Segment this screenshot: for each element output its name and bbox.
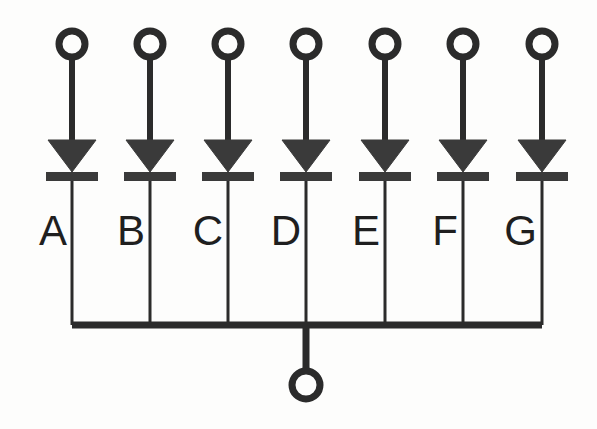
led-branch-g[interactable] [516,31,568,325]
branch-label-b: B [117,207,145,254]
schematic-canvas: ABCDEFG [0,0,597,429]
cathode-bar-b [124,172,176,181]
led-branch-a[interactable] [46,31,98,325]
branch-label-g: G [504,207,537,254]
branch-label-c: C [193,207,223,254]
cathode-bar-c [202,172,254,181]
anode-terminal-c[interactable] [215,31,241,57]
cathode-bar-d [280,172,332,181]
diode-triangle-a [48,140,96,172]
diode-triangle-b [126,140,174,172]
cathode-bar-g [516,172,568,181]
led-branch-b[interactable] [124,31,176,325]
anode-terminal-e[interactable] [372,31,398,57]
branch-label-d: D [271,207,301,254]
branch-label-a: A [39,207,67,254]
anode-terminal-a[interactable] [59,31,85,57]
common-cathode-terminal[interactable] [292,371,320,399]
led-branches-group [46,31,568,325]
anode-terminal-f[interactable] [450,31,476,57]
led-branch-c[interactable] [202,31,254,325]
diode-triangle-c [204,140,252,172]
cathode-bar-f [437,172,489,181]
anode-terminal-g[interactable] [529,31,555,57]
circuit-schematic: ABCDEFG [0,0,597,429]
diode-triangle-d [282,140,330,172]
cathode-bar-e [359,172,411,181]
cathode-bar-a [46,172,98,181]
led-branch-f[interactable] [437,31,489,325]
diode-triangle-f [439,140,487,172]
diode-triangle-e [361,140,409,172]
anode-terminal-d[interactable] [293,31,319,57]
led-branch-d[interactable] [280,31,332,325]
diode-triangle-g [518,140,566,172]
branch-label-f: F [432,207,458,254]
led-branch-e[interactable] [359,31,411,325]
branch-label-e: E [352,207,380,254]
anode-terminal-b[interactable] [137,31,163,57]
common-cathode-bus-group [72,325,542,399]
